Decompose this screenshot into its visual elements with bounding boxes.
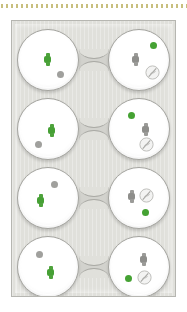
watch-band-bottom-icon	[142, 262, 146, 266]
dot-marker-icon[interactable]	[125, 275, 132, 282]
well-row	[17, 167, 170, 229]
divider-dash	[91, 4, 93, 8]
well-connector-channel	[79, 256, 109, 278]
well-connector-channel	[79, 187, 109, 209]
well-right[interactable]	[108, 29, 170, 91]
divider-dash	[51, 4, 53, 8]
divider-dash	[76, 4, 78, 8]
well-right[interactable]	[108, 236, 170, 297]
divider-dash	[141, 4, 143, 8]
divider-dash	[121, 4, 123, 8]
divider-dash	[56, 4, 58, 8]
watch-band-bottom-icon	[130, 199, 134, 203]
dotted-divider	[0, 4, 187, 8]
watch-band-bottom-icon	[144, 132, 148, 136]
slashed-circle-glyph	[137, 270, 152, 285]
divider-dash	[96, 4, 98, 8]
watch-marker-icon[interactable]	[44, 53, 51, 66]
divider-dash	[131, 4, 133, 8]
well-rim-icon	[111, 239, 167, 295]
well-connector-channel	[79, 49, 109, 71]
slashed-circle-icon[interactable]	[137, 270, 152, 285]
divider-dash	[111, 4, 113, 8]
divider-dash	[41, 4, 43, 8]
divider-dash	[186, 4, 187, 8]
bottom-margin	[0, 297, 187, 312]
divider-dash	[6, 4, 8, 8]
watch-marker-icon[interactable]	[128, 190, 135, 203]
divider-dash	[66, 4, 68, 8]
divider-dash	[11, 4, 13, 8]
divider-dash	[116, 4, 118, 8]
well-left[interactable]	[17, 98, 79, 160]
divider-dash	[151, 4, 153, 8]
watch-band-bottom-icon	[50, 133, 54, 137]
slashed-circle-glyph	[139, 188, 154, 203]
divider-dash	[101, 4, 103, 8]
well-right[interactable]	[108, 98, 170, 160]
divider-dash	[171, 4, 173, 8]
slashed-circle-icon[interactable]	[139, 137, 154, 152]
divider-dash	[36, 4, 38, 8]
divider-dash	[166, 4, 168, 8]
slashed-circle-glyph	[145, 65, 160, 80]
divider-dash	[176, 4, 178, 8]
divider-dash	[136, 4, 138, 8]
well-left[interactable]	[17, 236, 79, 297]
dot-marker-icon[interactable]	[51, 181, 58, 188]
watch-band-bottom-icon	[134, 62, 138, 66]
watch-marker-icon[interactable]	[47, 266, 54, 279]
watch-marker-icon[interactable]	[37, 194, 44, 207]
dot-marker-icon[interactable]	[150, 42, 157, 49]
divider-dash	[156, 4, 158, 8]
well-connector-channel	[79, 118, 109, 140]
divider-dash	[146, 4, 148, 8]
well-left[interactable]	[17, 29, 79, 91]
divider-dash	[181, 4, 183, 8]
well-row	[17, 236, 170, 297]
watch-marker-icon[interactable]	[140, 253, 147, 266]
watch-marker-icon[interactable]	[132, 53, 139, 66]
well-right[interactable]	[108, 167, 170, 229]
well-left[interactable]	[17, 167, 79, 229]
well-row	[17, 29, 170, 91]
divider-dash	[71, 4, 73, 8]
divider-dash	[21, 4, 23, 8]
divider-dash	[86, 4, 88, 8]
divider-dash	[16, 4, 18, 8]
watch-band-bottom-icon	[49, 275, 53, 279]
divider-dash	[106, 4, 108, 8]
divider-dash	[31, 4, 33, 8]
divider-dash	[126, 4, 128, 8]
slashed-circle-icon[interactable]	[139, 188, 154, 203]
watch-marker-icon[interactable]	[48, 124, 55, 137]
divider-dash	[161, 4, 163, 8]
watch-band-bottom-icon	[46, 62, 50, 66]
divider-dash	[81, 4, 83, 8]
dot-marker-icon[interactable]	[128, 112, 135, 119]
dot-marker-icon[interactable]	[36, 251, 43, 258]
dot-marker-icon[interactable]	[57, 71, 64, 78]
well-rim-icon	[20, 170, 76, 226]
dot-marker-icon[interactable]	[35, 141, 42, 148]
watch-marker-icon[interactable]	[142, 123, 149, 136]
divider-dash	[26, 4, 28, 8]
dot-marker-icon[interactable]	[142, 209, 149, 216]
watch-band-bottom-icon	[39, 203, 43, 207]
well-row	[17, 98, 170, 160]
divider-dash	[1, 4, 3, 8]
chip-panel	[11, 20, 176, 297]
divider-dash	[46, 4, 48, 8]
slashed-circle-glyph	[139, 137, 154, 152]
slashed-circle-icon[interactable]	[145, 65, 160, 80]
divider-dash	[61, 4, 63, 8]
